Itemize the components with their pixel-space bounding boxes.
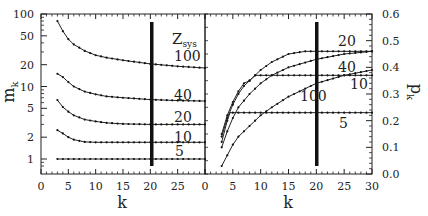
right-label-20: 20 xyxy=(338,33,356,49)
left-y-tick-label: 2 xyxy=(27,131,34,144)
figure: 05101520250125102050100 510152025300.00.… xyxy=(0,0,428,216)
left-y-axis-label: mk xyxy=(0,80,20,102)
left-x-tick-label: 0 xyxy=(38,180,45,193)
right-y-tick-label: 0.3 xyxy=(382,88,400,101)
right-label-10: 10 xyxy=(350,76,368,92)
left-y-tick-label: 50 xyxy=(20,30,34,43)
right-y-tick-label: 0.4 xyxy=(382,61,400,74)
right-x-tick-label: 15 xyxy=(282,180,296,193)
left-label-5: 5 xyxy=(175,143,184,159)
right-y-tick-label: 0.2 xyxy=(382,115,400,128)
left-label-20: 20 xyxy=(174,109,192,125)
left-x-tick-label: 0 xyxy=(202,180,209,193)
left-x-tick-label: 20 xyxy=(143,180,157,193)
left-y-tick-label: 10 xyxy=(20,81,34,94)
zsys-legend-title: Zsys xyxy=(172,30,197,49)
left-x-tick-label: 10 xyxy=(89,180,103,193)
right-x-tick-label: 20 xyxy=(309,180,323,193)
right-y-tick-label: 0.5 xyxy=(382,35,400,48)
left-label-40: 40 xyxy=(174,87,192,103)
left-x-axis-label: k xyxy=(117,193,127,212)
left-label-100: 100 xyxy=(174,48,201,64)
left-y-tick-label: 20 xyxy=(20,59,34,72)
left-x-tick-label: 15 xyxy=(116,180,130,193)
right-x-tick-label: 30 xyxy=(365,180,379,193)
right-y-tick-label: 0.6 xyxy=(382,8,400,21)
right-x-tick-label: 10 xyxy=(254,180,268,193)
curve-z5 xyxy=(222,113,372,142)
right-y-tick-label: 0.0 xyxy=(382,168,400,181)
right-label-100: 100 xyxy=(300,88,327,104)
right-label-40: 40 xyxy=(338,59,356,75)
right-y-tick-label: 0.1 xyxy=(382,141,400,154)
left-x-tick-label: 25 xyxy=(171,180,185,193)
left-k20-bar xyxy=(150,22,154,166)
left-x-tick-label: 5 xyxy=(65,180,72,193)
left-y-tick-label: 5 xyxy=(27,102,34,115)
right-label-5: 5 xyxy=(339,115,348,131)
left-y-tick-label: 100 xyxy=(13,8,34,21)
left-y-tick-label: 1 xyxy=(27,153,34,166)
right-x-tick-label: 25 xyxy=(337,180,351,193)
right-x-axis-label: k xyxy=(283,193,293,212)
right-x-tick-label: 5 xyxy=(229,180,236,193)
right-y-axis-label: pk xyxy=(405,84,426,101)
